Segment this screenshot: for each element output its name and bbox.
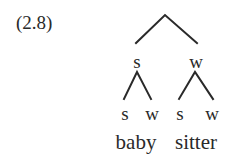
- node-s-sitter: s: [176, 104, 183, 123]
- word-sitter: sitter: [175, 132, 217, 153]
- node-s-baby: s: [121, 104, 128, 123]
- word-baby: baby: [116, 132, 157, 153]
- node-w-baby: w: [145, 104, 159, 123]
- right-subtree-branches: [179, 72, 213, 99]
- node-s-level1: s: [133, 52, 140, 71]
- left-subtree-branches: [124, 72, 151, 99]
- metrical-tree-figure: (2.8) s w s w s w baby sitter: [0, 0, 237, 168]
- root-branches: [136, 15, 197, 43]
- node-w-sitter: w: [205, 104, 219, 123]
- node-w-level1: w: [189, 52, 203, 71]
